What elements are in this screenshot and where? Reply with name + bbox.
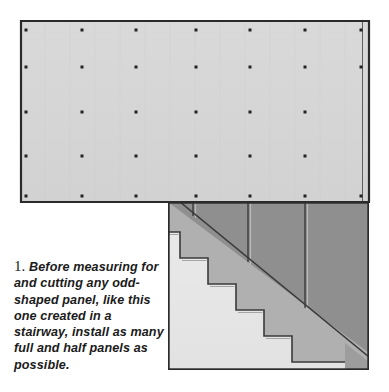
fastener-dot xyxy=(304,195,307,198)
figure-caption: 1. Before measuring for and cutting any … xyxy=(14,258,166,373)
fastener-dot xyxy=(304,111,307,114)
stairway-opening xyxy=(168,202,369,370)
fastener-dot xyxy=(249,195,252,198)
fastener-dot xyxy=(195,155,198,158)
fastener-dot xyxy=(81,66,84,69)
fastener-dot xyxy=(135,111,138,114)
fastener-dot xyxy=(81,195,84,198)
fastener-dot xyxy=(249,29,252,32)
fastener-dot xyxy=(81,29,84,32)
fastener-dot xyxy=(81,111,84,114)
fastener-dot xyxy=(195,195,198,198)
drywall-panel-group xyxy=(21,21,369,202)
fastener-dot xyxy=(249,111,252,114)
fastener-dot xyxy=(360,195,363,198)
fastener-dot xyxy=(304,29,307,32)
fastener-dot xyxy=(135,66,138,69)
fastener-dot xyxy=(360,29,363,32)
fastener-dot xyxy=(135,29,138,32)
caption-text: Before measuring for and cutting any odd… xyxy=(14,260,164,372)
fastener-dot xyxy=(249,66,252,69)
fastener-dot xyxy=(25,111,28,114)
fastener-dot xyxy=(304,155,307,158)
fastener-dot xyxy=(195,29,198,32)
fastener-dot xyxy=(360,66,363,69)
fastener-dot xyxy=(195,66,198,69)
fastener-dot xyxy=(304,66,307,69)
fastener-dot xyxy=(25,66,28,69)
fastener-dot xyxy=(135,155,138,158)
fastener-dot xyxy=(25,155,28,158)
fastener-dot xyxy=(25,29,28,32)
fastener-dot xyxy=(135,195,138,198)
fastener-dot xyxy=(195,111,198,114)
fastener-dot xyxy=(81,155,84,158)
fastener-dot xyxy=(249,155,252,158)
caption-step-number: 1. xyxy=(14,258,25,274)
stairway-drywall-figure: 1. Before measuring for and cutting any … xyxy=(0,0,389,392)
fastener-dot xyxy=(25,195,28,198)
